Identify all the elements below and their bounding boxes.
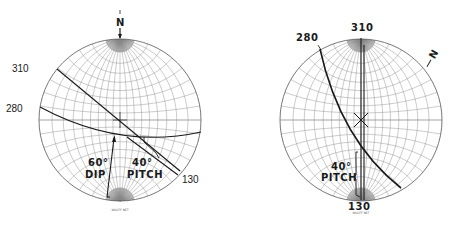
strike-label-130: 130 <box>182 174 199 185</box>
wulff-net-left: N 310 280 130 60° DIP 40° PITCH s WULFF … <box>6 10 201 212</box>
pitch-value-right: 40° <box>331 161 351 172</box>
strike-label-310: 310 <box>12 63 29 74</box>
pitch-label-right: PITCH <box>321 172 357 183</box>
north-indicator-right: N <box>422 47 441 69</box>
net-caption-left: WULFF NET <box>111 208 128 212</box>
north-label-right: N <box>427 47 441 60</box>
north-label-left: N <box>116 17 125 28</box>
figure-canvas: N 310 280 130 60° DIP 40° PITCH s WULFF … <box>0 0 459 225</box>
dip-label: DIP <box>85 169 106 180</box>
pitch-value-left: 40° <box>132 157 152 168</box>
strike-label-280: 280 <box>6 103 23 114</box>
north-leader-right <box>427 60 431 67</box>
strike-label-310-right: 310 <box>351 22 373 33</box>
net-caption-right: WULFF NET <box>352 211 369 215</box>
pitch-label-left: PITCH <box>127 169 163 180</box>
dip-value: 60° <box>88 157 108 168</box>
dip-arrowhead-icon <box>112 135 116 142</box>
strike-label-280-right: 280 <box>296 32 318 43</box>
wulff-net-right: N 310 280 130 40° PITCH WULFF NET <box>280 22 442 215</box>
arrowhead-icon <box>118 34 122 39</box>
